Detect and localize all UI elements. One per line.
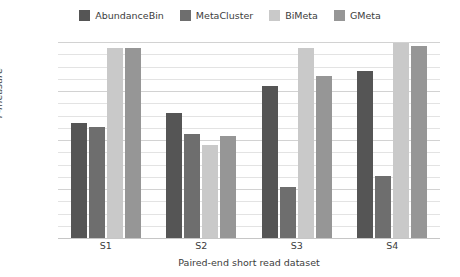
bar-abundancebin-s3[interactable] <box>262 86 278 238</box>
bar-metacluster-s1[interactable] <box>89 127 105 238</box>
x-axis-ticks: S1S2S3S4 <box>58 241 440 251</box>
bar-metacluster-s2[interactable] <box>184 134 200 238</box>
bar-gmeta-s4[interactable] <box>411 46 427 238</box>
bar-group-s3 <box>249 42 345 238</box>
bar-groups <box>58 42 440 238</box>
legend-label: BiMeta <box>285 11 318 21</box>
bar-bimeta-s1[interactable] <box>107 48 123 238</box>
x-axis-label: Paired-end short read dataset <box>58 258 440 268</box>
bar-bimeta-s3[interactable] <box>298 48 314 238</box>
bar-group-s4 <box>345 42 441 238</box>
x-tick-label-s4: S4 <box>345 241 441 251</box>
bar-chart: AbundanceBinMetaClusterBiMetaGMeta 0.20.… <box>0 0 460 277</box>
y-axis-label: F-measure <box>0 68 4 118</box>
x-tick-label-s1: S1 <box>58 241 154 251</box>
bar-bimeta-s4[interactable] <box>393 43 409 238</box>
legend-label: GMeta <box>350 11 381 21</box>
legend-swatch-icon <box>79 10 90 21</box>
bar-abundancebin-s4[interactable] <box>357 71 373 238</box>
legend-label: MetaCluster <box>196 11 253 21</box>
gridline-major <box>58 238 440 239</box>
legend-entry-abundancebin[interactable]: AbundanceBin <box>79 10 164 21</box>
bar-abundancebin-s2[interactable] <box>166 113 182 238</box>
legend-entry-metacluster[interactable]: MetaCluster <box>180 10 253 21</box>
bar-gmeta-s2[interactable] <box>220 136 236 238</box>
bar-bimeta-s2[interactable] <box>202 145 218 238</box>
legend-swatch-icon <box>269 10 280 21</box>
legend-entry-bimeta[interactable]: BiMeta <box>269 10 318 21</box>
bar-metacluster-s4[interactable] <box>375 176 391 238</box>
chart-legend: AbundanceBinMetaClusterBiMetaGMeta <box>0 10 460 21</box>
legend-label: AbundanceBin <box>95 11 164 21</box>
x-tick-label-s3: S3 <box>249 241 345 251</box>
bar-abundancebin-s1[interactable] <box>71 123 87 238</box>
legend-swatch-icon <box>334 10 345 21</box>
bar-group-s1 <box>58 42 154 238</box>
bar-gmeta-s1[interactable] <box>125 48 141 238</box>
x-tick-label-s2: S2 <box>154 241 250 251</box>
legend-entry-gmeta[interactable]: GMeta <box>334 10 381 21</box>
bar-group-s2 <box>154 42 250 238</box>
legend-swatch-icon <box>180 10 191 21</box>
bar-metacluster-s3[interactable] <box>280 187 296 238</box>
bar-gmeta-s3[interactable] <box>316 76 332 238</box>
